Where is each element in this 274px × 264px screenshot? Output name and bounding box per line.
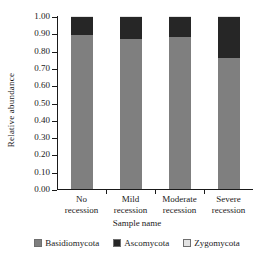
x-axis-title: Sample name [0,218,274,228]
y-tick-mark [52,121,57,122]
bar-segment-basidiomycota [71,35,93,189]
y-tick-mark [52,69,57,70]
legend-swatch [113,239,121,247]
bar-segment-ascomycota [218,17,240,58]
y-tick-mark [52,86,57,87]
legend-swatch [183,239,191,247]
x-category-label-line: recession [197,205,261,216]
bar-stack [120,16,142,189]
bar-stack [71,16,93,189]
bar-segment-ascomycota [71,17,93,35]
y-tick-label: 0.60 [34,80,50,90]
bar-stack [218,16,240,189]
bar-segment-basidiomycota [120,39,142,189]
y-tick-label: 0.00 [34,184,50,194]
y-tick-label: 0.20 [34,149,50,159]
bar-segment-basidiomycota [169,37,191,189]
legend: BasidiomycotaAscomycotaZygomycota [0,238,274,248]
y-tick-label: 0.70 [34,63,50,73]
legend-item-ascomycota[interactable]: Ascomycota [113,238,169,248]
y-axis-line [57,16,58,190]
legend-item-zygomycota[interactable]: Zygomycota [183,238,240,248]
legend-item-basidiomycota[interactable]: Basidiomycota [34,238,99,248]
y-tick-mark [52,155,57,156]
y-axis-title: Relative abundance [6,45,16,175]
y-tick-mark [52,173,57,174]
y-tick-label: 1.00 [34,11,50,21]
y-tick-mark [52,17,57,18]
y-tick-label: 0.10 [34,167,50,177]
x-category-label-line: Severe [197,194,261,205]
y-tick-label: 0.30 [34,132,50,142]
y-tick-label: 0.50 [34,98,50,108]
x-category-label: Severerecession [197,194,261,216]
plot-area: 0.000.100.200.300.400.500.600.700.800.90… [57,16,253,190]
y-tick-label: 0.90 [34,28,50,38]
y-tick-mark [52,104,57,105]
y-tick-mark [52,138,57,139]
bar-segment-ascomycota [120,17,142,39]
y-tick-mark [52,52,57,53]
bar-segment-ascomycota [169,17,191,37]
y-tick-mark [52,34,57,35]
legend-label: Ascomycota [124,238,169,248]
legend-swatch [34,239,42,247]
bar-stack [169,16,191,189]
legend-label: Basidiomycota [45,238,99,248]
legend-label: Zygomycota [194,238,240,248]
bar-segment-basidiomycota [218,58,240,189]
y-tick-label: 0.80 [34,46,50,56]
y-tick-mark [52,190,57,191]
y-tick-label: 0.40 [34,115,50,125]
stacked-bar-chart: Relative abundance 0.000.100.200.300.400… [0,0,274,264]
